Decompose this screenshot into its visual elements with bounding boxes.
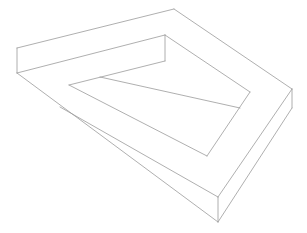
inner-right-edge: [207, 92, 250, 156]
outer-top-edge: [17, 9, 174, 48]
inner-left-edge: [69, 85, 207, 156]
inner-back-edge: [69, 61, 165, 85]
figure-lines: [17, 9, 292, 222]
inner-divider: [100, 77, 240, 108]
front-top-edge: [17, 35, 165, 73]
inner-right-top-edge: [165, 35, 250, 92]
outer-right-edge: [174, 9, 292, 89]
right-bottom-lower-edge: [218, 108, 292, 222]
outer-bottom-left-edge: [17, 73, 218, 222]
impossible-figure: [0, 0, 307, 233]
inner-band-edge: [60, 107, 218, 197]
